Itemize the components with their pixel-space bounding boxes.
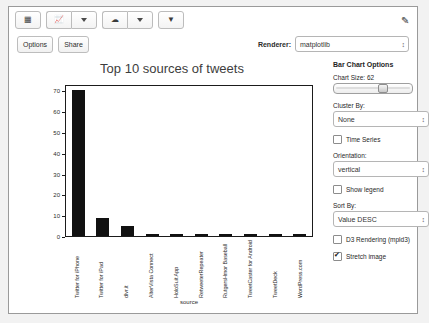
cluster-by-label: Cluster By: bbox=[333, 102, 413, 109]
x-axis-tick: AlterVista Connect bbox=[145, 238, 158, 298]
bar-series bbox=[66, 86, 312, 236]
top-toolbar: ▦ 📈 ☁ ▼ ✎ bbox=[9, 7, 417, 33]
slider-track bbox=[336, 87, 410, 89]
y-axis-tick-label: 10 bbox=[53, 213, 60, 219]
y-axis-tick-label: 60 bbox=[53, 109, 60, 115]
bar bbox=[269, 234, 282, 236]
bar bbox=[293, 234, 306, 236]
renderer-select-value: matplotlib bbox=[300, 41, 330, 48]
slider-knob[interactable] bbox=[378, 84, 388, 93]
x-axis-tick-label: RutgersHmor Baseball bbox=[223, 238, 228, 298]
bar bbox=[96, 218, 109, 236]
grid-view-button[interactable]: ▦ bbox=[15, 11, 41, 29]
bar bbox=[244, 234, 257, 236]
share-button-label: Share bbox=[64, 41, 83, 48]
cluster-by-select[interactable]: None bbox=[333, 111, 429, 127]
sort-by-value: Value DESC bbox=[338, 216, 377, 223]
orientation-select[interactable]: vertical bbox=[333, 161, 429, 177]
x-axis-tick: WordPress.com bbox=[294, 238, 307, 298]
options-button[interactable]: Options bbox=[17, 36, 53, 53]
cloud-button[interactable]: ☁ bbox=[102, 11, 127, 29]
time-series-checkbox[interactable] bbox=[333, 135, 342, 144]
sort-by-select[interactable]: Value DESC bbox=[333, 211, 429, 227]
secondary-toolbar: Options Share Renderer: matplotlib bbox=[9, 33, 417, 55]
chart-size-label: Chart Size: 62 bbox=[333, 74, 413, 81]
x-axis-tick-label: HoloSuit App bbox=[174, 238, 179, 298]
chart-container: Top 10 sources of tweets 706050403020100… bbox=[13, 55, 331, 309]
bar bbox=[219, 234, 232, 236]
export-dropdown-button[interactable] bbox=[127, 11, 153, 29]
line-chart-button[interactable]: 📈 bbox=[46, 11, 71, 29]
chevron-down-icon bbox=[81, 18, 87, 22]
filter-icon: ▼ bbox=[167, 16, 175, 24]
x-axis-tick-label: TweetDeck bbox=[273, 238, 278, 298]
export-group: ☁ bbox=[102, 11, 153, 29]
bar bbox=[72, 90, 85, 236]
y-axis-tick-label: 50 bbox=[53, 130, 60, 136]
x-axis-title: source bbox=[65, 299, 313, 305]
plot-area bbox=[65, 85, 313, 237]
show-legend-checkbox-row[interactable]: Show legend bbox=[333, 185, 413, 194]
chart-size-slider[interactable] bbox=[333, 83, 413, 94]
y-axis-tick-label: 20 bbox=[53, 192, 60, 198]
bar bbox=[195, 234, 208, 236]
y-axis-tick-label: 40 bbox=[53, 151, 60, 157]
stretch-image-checkbox-row[interactable]: Stretch image bbox=[333, 252, 413, 261]
time-series-checkbox-row[interactable]: Time Series bbox=[333, 135, 413, 144]
x-axis-tick-label: WordPress.com bbox=[298, 238, 303, 298]
bar bbox=[146, 234, 159, 236]
x-axis-tick-labels: Twitter for iPhoneTwitter for iPaddlvr.i… bbox=[65, 238, 313, 298]
bar-chart-options-panel: Bar Chart Options Chart Size: 62 Cluster… bbox=[333, 61, 413, 269]
y-axis-tick-label: 0 bbox=[57, 234, 60, 240]
renderer-select[interactable]: matplotlib bbox=[295, 36, 409, 52]
x-axis-tick: Twitter for iPhone bbox=[71, 238, 84, 298]
y-axis-tick-label: 70 bbox=[53, 88, 60, 94]
bar bbox=[121, 226, 134, 236]
x-axis-tick-label: Twitter for iPhone bbox=[75, 238, 80, 298]
chart-title: Top 10 sources of tweets bbox=[13, 61, 331, 76]
show-legend-checkbox[interactable] bbox=[333, 185, 342, 194]
x-axis-tick-label: dlvr.it bbox=[124, 238, 129, 298]
renderer-control: Renderer: matplotlib bbox=[258, 36, 409, 52]
share-button[interactable]: Share bbox=[58, 36, 89, 53]
y-axis-tick-label: 30 bbox=[53, 172, 60, 178]
line-chart-icon: 📈 bbox=[54, 16, 64, 24]
time-series-label: Time Series bbox=[346, 136, 380, 143]
x-axis-tick: TweetDeck bbox=[269, 238, 282, 298]
chart-type-group: 📈 bbox=[46, 11, 97, 29]
x-axis-tick-label: RetweeterRepeater bbox=[199, 238, 204, 298]
x-axis-tick-label: AlterVista Connect bbox=[149, 238, 154, 298]
x-axis-tick: HoloSuit App bbox=[170, 238, 183, 298]
orientation-value: vertical bbox=[338, 166, 360, 173]
stretch-image-checkbox[interactable] bbox=[333, 252, 342, 261]
x-axis-tick: RutgersHmor Baseball bbox=[220, 238, 233, 298]
x-axis-tick-label: Twitter for iPad bbox=[99, 238, 104, 298]
visualization-window: ▦ 📈 ☁ ▼ ✎ Options bbox=[8, 6, 418, 314]
d3-rendering-label: D3 Rendering (mpld3) bbox=[346, 236, 410, 243]
x-axis-tick: TweetCaster for Android bbox=[244, 238, 257, 298]
x-axis-tick: Twitter for iPad bbox=[96, 238, 109, 298]
cloud-icon: ☁ bbox=[111, 16, 119, 24]
edit-button[interactable]: ✎ bbox=[401, 15, 409, 26]
y-axis: 706050403020100 bbox=[13, 85, 65, 237]
chart-type-dropdown-button[interactable] bbox=[71, 11, 97, 29]
filter-button[interactable]: ▼ bbox=[158, 11, 184, 29]
orientation-label: Orientation: bbox=[333, 152, 413, 159]
pencil-icon: ✎ bbox=[401, 15, 409, 26]
d3-rendering-checkbox-row[interactable]: D3 Rendering (mpld3) bbox=[333, 235, 413, 244]
x-axis-tick: RetweeterRepeater bbox=[195, 238, 208, 298]
show-legend-label: Show legend bbox=[346, 186, 384, 193]
chevron-down-icon bbox=[137, 18, 143, 22]
x-axis-tick: dlvr.it bbox=[120, 238, 133, 298]
panel-title: Bar Chart Options bbox=[333, 61, 413, 68]
renderer-label: Renderer: bbox=[258, 41, 291, 48]
x-axis-tick-label: TweetCaster for Android bbox=[248, 238, 253, 298]
grid-icon: ▦ bbox=[24, 16, 32, 24]
d3-rendering-checkbox[interactable] bbox=[333, 235, 342, 244]
stretch-image-label: Stretch image bbox=[346, 253, 386, 260]
sort-by-label: Sort By: bbox=[333, 202, 413, 209]
cluster-by-value: None bbox=[338, 116, 355, 123]
bar bbox=[170, 234, 183, 236]
options-button-label: Options bbox=[23, 41, 47, 48]
